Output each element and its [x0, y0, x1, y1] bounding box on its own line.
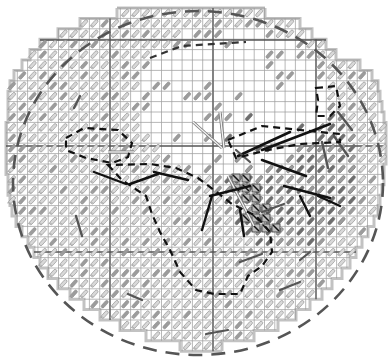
diagram-canvas: [0, 0, 392, 364]
grid-map: [0, 0, 392, 364]
